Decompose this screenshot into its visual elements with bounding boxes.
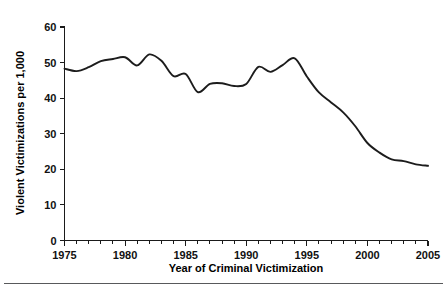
y-tick-label: 30 <box>44 128 56 140</box>
y-tick-label: 0 <box>50 235 56 247</box>
x-axis-tick-labels: 1975198019851990199520002005 <box>52 249 440 261</box>
x-axis: 1975198019851990199520002005 <box>52 241 440 261</box>
y-axis-ticks <box>60 27 65 241</box>
y-axis-title: Violent Victimizations per 1,000 <box>14 51 26 215</box>
x-tick-label: 1990 <box>234 249 258 261</box>
y-tick-label: 50 <box>44 57 56 69</box>
x-axis-ticks <box>65 241 429 247</box>
y-tick-label: 10 <box>44 199 56 211</box>
x-tick-label: 1980 <box>113 249 137 261</box>
x-axis-title: Year of Criminal Victimization <box>169 262 324 274</box>
y-tick-label: 60 <box>44 21 56 33</box>
x-tick-label: 2000 <box>355 249 379 261</box>
footer-divider <box>4 283 443 284</box>
x-tick-label: 2005 <box>416 249 440 261</box>
y-tick-label: 40 <box>44 92 56 104</box>
x-tick-label: 1995 <box>295 249 319 261</box>
x-tick-label: 1985 <box>173 249 197 261</box>
line-chart: 0102030405060 19751980198519901995200020… <box>0 0 447 295</box>
y-axis: 0102030405060 <box>44 21 64 247</box>
chart-figure: 0102030405060 19751980198519901995200020… <box>0 0 447 295</box>
y-axis-tick-labels: 0102030405060 <box>44 21 56 247</box>
y-tick-label: 20 <box>44 163 56 175</box>
violent-victimization-line <box>65 54 429 165</box>
x-tick-label: 1975 <box>52 249 76 261</box>
